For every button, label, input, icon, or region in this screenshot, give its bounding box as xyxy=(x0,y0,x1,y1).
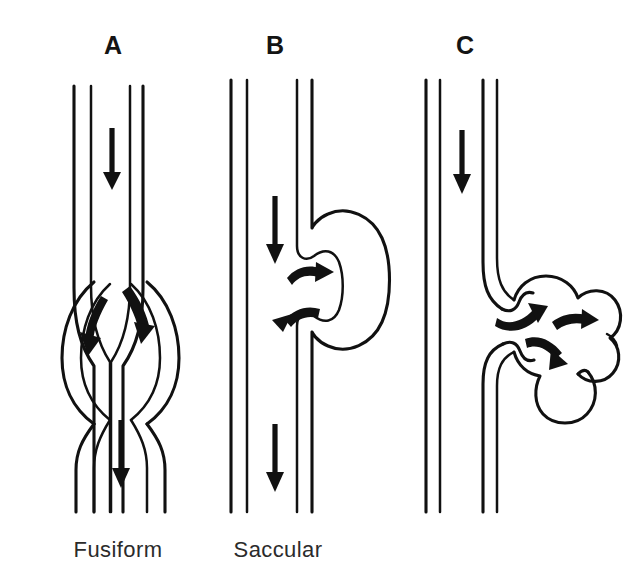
panel-b-letter: B xyxy=(266,31,284,59)
panel-a-letter: A xyxy=(104,31,122,59)
panel-b-caption: Saccular xyxy=(234,537,323,562)
panel-a-caption: Fusiform xyxy=(74,537,163,562)
aneurysm-illustration-canvas: A xyxy=(0,0,636,588)
aneurysm-figure: A xyxy=(0,0,636,588)
panel-c-letter: C xyxy=(456,31,474,59)
